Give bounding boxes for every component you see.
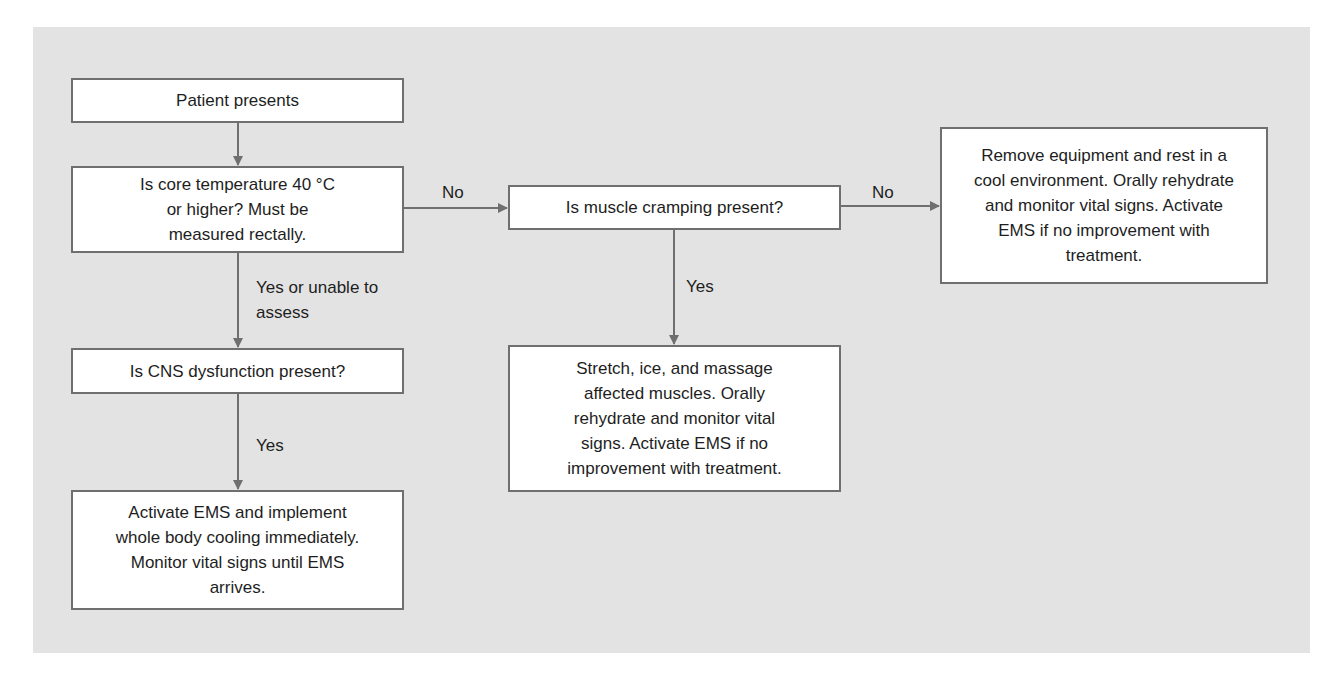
node-text: Stretch, ice, and massage affected muscl… [554,356,795,481]
node-text: Is core temperature 40 °C or higher? Mus… [133,172,342,247]
node-muscle-cramping-question: Is muscle cramping present? [508,185,841,230]
node-cns-question: Is CNS dysfunction present? [71,348,404,394]
edge-label-temp-yes-or-unable: Yes or unable to assess [256,275,386,325]
node-text: Is muscle cramping present? [566,195,783,220]
node-text: Patient presents [176,88,299,113]
edge-label-muscle-yes: Yes [686,274,714,299]
node-text: Activate EMS and implement whole body co… [113,500,362,600]
edge-label-muscle-no: No [872,180,894,205]
edge-label-cns-yes: Yes [256,433,284,458]
node-text: Remove equipment and rest in a cool envi… [972,143,1236,268]
node-patient-presents: Patient presents [71,78,404,123]
node-core-temp-question: Is core temperature 40 °C or higher? Mus… [71,166,404,253]
edge-label-temp-no: No [442,180,464,205]
node-activate-ems-cooling: Activate EMS and implement whole body co… [71,490,404,610]
node-remove-equipment-rest: Remove equipment and rest in a cool envi… [940,127,1268,284]
node-text: Is CNS dysfunction present? [130,359,345,384]
node-stretch-ice-massage: Stretch, ice, and massage affected muscl… [508,345,841,492]
